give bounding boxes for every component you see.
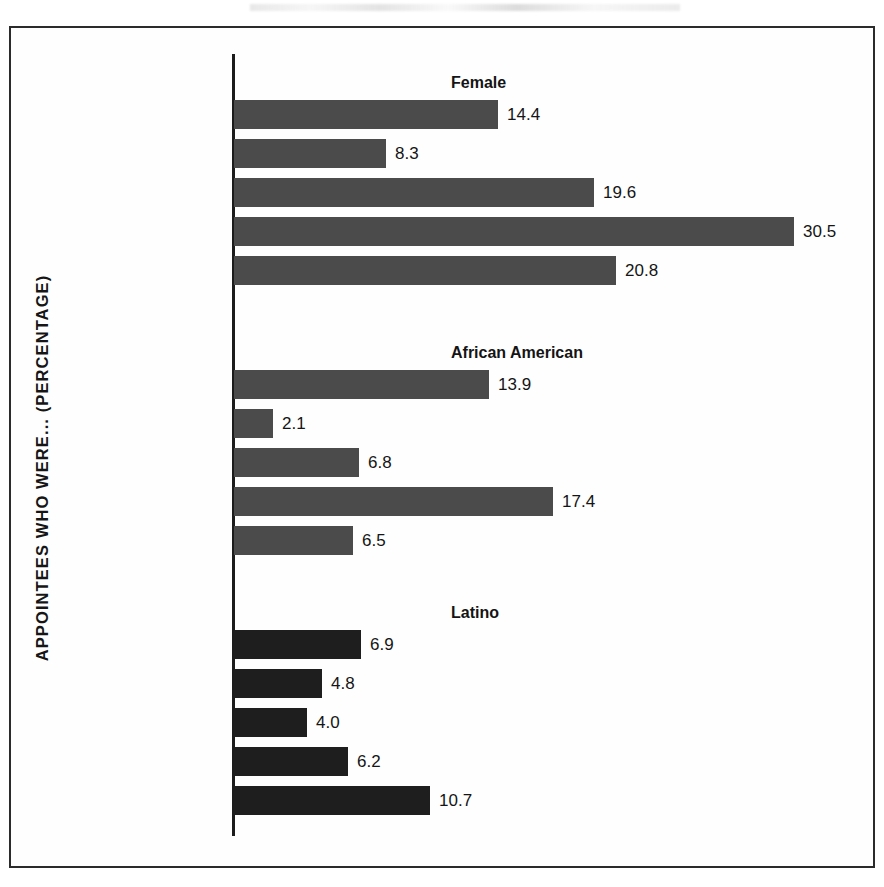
bar (234, 409, 273, 438)
bar (234, 669, 322, 698)
bar (234, 526, 353, 555)
page-top-scan-artifact (0, 0, 884, 20)
bar-value-label: 30.5 (803, 217, 836, 246)
group-title-female: Female (451, 74, 506, 92)
bar (234, 370, 489, 399)
bar (234, 100, 498, 129)
bar-value-label: 4.8 (331, 669, 355, 698)
bar-value-label: 19.6 (603, 178, 636, 207)
bar (234, 487, 553, 516)
bar-value-label: 17.4 (562, 487, 595, 516)
bar (234, 178, 594, 207)
bar (234, 630, 361, 659)
figure-frame: APPOINTEES WHO WERE... (PERCENTAGE) Fema… (9, 26, 875, 868)
bar-value-label: 20.8 (625, 256, 658, 285)
bar-value-label: 13.9 (498, 370, 531, 399)
bar-chart-plot-area: FemaleCarter14.4Reagan8.3G. H. W. Bush19… (11, 28, 877, 870)
bar-value-label: 6.5 (362, 526, 386, 555)
bar-value-label: 2.1 (282, 409, 306, 438)
bar-value-label: 10.7 (439, 786, 472, 815)
group-title-african-american: African American (451, 344, 583, 362)
bar-value-label: 8.3 (395, 139, 419, 168)
bar (234, 747, 348, 776)
bar-value-label: 14.4 (507, 100, 540, 129)
bar-value-label: 6.2 (357, 747, 381, 776)
bar (234, 708, 307, 737)
bar-value-label: 6.8 (368, 448, 392, 477)
bar-value-label: 6.9 (370, 630, 394, 659)
bar (234, 217, 794, 246)
bar-value-label: 4.0 (316, 708, 340, 737)
bar (234, 448, 359, 477)
clipped-text-smudge (250, 4, 680, 11)
bar (234, 139, 386, 168)
bar (234, 256, 616, 285)
bar (234, 786, 430, 815)
group-title-latino: Latino (451, 604, 499, 622)
